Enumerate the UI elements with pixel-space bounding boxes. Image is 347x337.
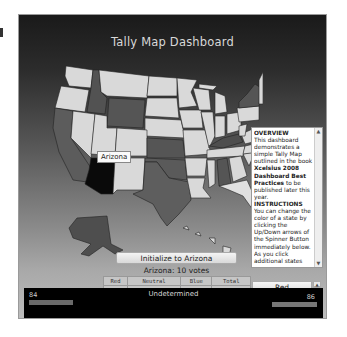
header-red: Red (104, 277, 128, 286)
edge-mark (0, 28, 3, 37)
state-north-dakota[interactable] (147, 76, 177, 96)
undetermined-label: Undetermined (24, 290, 323, 298)
info-scrollbar[interactable]: ▲ ▼ (314, 128, 322, 267)
state-new-mexico[interactable] (113, 158, 145, 194)
state-alaska[interactable] (69, 216, 123, 256)
state-montana[interactable] (99, 70, 149, 98)
state-alabama[interactable] (217, 158, 231, 186)
state-mississippi[interactable] (207, 160, 215, 188)
header-neutral: Neutral (128, 277, 181, 286)
blue-total: 86 (307, 293, 315, 301)
state-oregon[interactable] (55, 86, 89, 112)
instructions-heading: INSTRUCTIONS (254, 201, 303, 207)
header-total: Total (212, 277, 251, 286)
state-wisconsin[interactable] (193, 88, 211, 110)
us-map[interactable] (33, 58, 263, 258)
initialize-button[interactable]: Initialize to Arizona (116, 252, 237, 264)
state-indiana[interactable] (215, 116, 225, 138)
state-arizona[interactable] (85, 158, 115, 194)
red-progress-bar (29, 300, 73, 305)
scroll-down-icon[interactable]: ▼ (315, 260, 322, 267)
state-iowa[interactable] (179, 110, 203, 128)
scroll-up-icon[interactable]: ▲ (315, 128, 322, 135)
tally-summary-bar: 84 Undetermined 86 (24, 288, 323, 319)
header-blue: Blue (181, 277, 212, 286)
state-tooltip: Arizona (97, 151, 131, 163)
state-pennsylvania[interactable] (237, 106, 259, 122)
state-arkansas[interactable] (185, 158, 207, 176)
info-panel: OVERVIEW This dashboard demonstrates a s… (251, 127, 323, 268)
overview-text-1: This dashboard demonstrates a simple Tal… (254, 137, 312, 164)
overview-heading: OVERVIEW (254, 130, 289, 136)
dashboard-title: Tally Map Dashboard (19, 35, 326, 49)
state-nebraska[interactable] (145, 118, 185, 138)
state-louisiana[interactable] (187, 178, 211, 198)
state-washington[interactable] (65, 66, 93, 88)
state-minnesota[interactable] (177, 78, 197, 108)
state-new-england[interactable] (259, 72, 263, 104)
state-kansas[interactable] (147, 138, 185, 158)
state-wyoming[interactable] (107, 98, 145, 128)
info-text: OVERVIEW This dashboard demonstrates a s… (254, 130, 313, 265)
selected-state-votes: Arizona: 10 votes (109, 266, 244, 275)
tally-header-row: Red Neutral Blue Total (104, 277, 251, 286)
state-new-york[interactable] (239, 84, 261, 108)
state-michigan[interactable] (215, 92, 227, 114)
state-south-dakota[interactable] (145, 98, 179, 118)
blue-progress-bar (272, 302, 317, 307)
state-georgia[interactable] (229, 156, 247, 182)
dashboard-panel: Tally Map Dashboard (18, 14, 327, 319)
instructions-text: You can change the color of a state by c… (254, 208, 311, 265)
